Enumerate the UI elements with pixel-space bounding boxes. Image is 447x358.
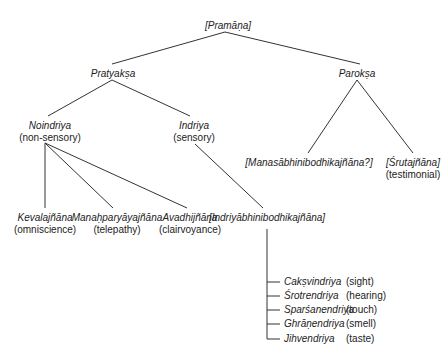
sense-gloss: (smell) <box>346 318 376 330</box>
node-term: Manaḥparyāyajñāna <box>72 212 163 224</box>
sense-gloss: (sight) <box>346 276 374 288</box>
node-manasabhinibodhikajnana: [Manasābhinibodhikajñāna?] <box>245 157 372 169</box>
node-term: Noindriya <box>19 120 81 132</box>
node-gloss: (non-sensory) <box>19 132 81 144</box>
sense-gloss: (hearing) <box>346 290 386 302</box>
node-term: Pratyakṣa <box>91 68 135 80</box>
node-kevalajnana: Kevalajñāna (omniscience) <box>14 212 76 236</box>
tree-edges <box>0 0 447 358</box>
sense-term: Ghrāṇendriya <box>284 318 345 330</box>
sense-gloss: (taste) <box>346 333 374 345</box>
node-pramana: [Pramāṇa] <box>205 20 251 32</box>
node-noindriya: Noindriya (non-sensory) <box>19 120 81 144</box>
node-srutajnana: [Śrutajñāna] (testimonial) <box>386 157 440 181</box>
node-indriya: Indriya (sensory) <box>173 120 215 144</box>
sense-term: Cakṣvindriya <box>284 276 341 288</box>
node-manahparyayajnana: Manaḥparyāyajñāna (telepathy) <box>72 212 163 236</box>
node-gloss: (telepathy) <box>72 224 163 236</box>
node-term: [Manasābhinibodhikajñāna?] <box>245 157 372 169</box>
node-term: [Pramāṇa] <box>205 20 251 32</box>
node-gloss: (omniscience) <box>14 224 76 236</box>
sense-term: Śrotrendriya <box>284 290 338 302</box>
node-paroksa: Parokṣa <box>339 68 376 80</box>
node-gloss: (clairvoyance) <box>159 224 221 236</box>
sense-term: Sparśanendriya <box>284 304 354 316</box>
node-gloss: (testimonial) <box>386 169 440 181</box>
sense-term: Jihvendriya <box>284 333 335 345</box>
node-term: [Śrutajñāna] <box>386 157 440 169</box>
node-term: Parokṣa <box>339 68 376 80</box>
node-pratyaksa: Pratyakṣa <box>91 68 135 80</box>
node-term: Indriya <box>173 120 215 132</box>
sense-gloss: (touch) <box>346 304 377 316</box>
node-term: Kevalajñāna <box>14 212 76 224</box>
node-term: [Indriyābhinibodhikajñāna] <box>209 212 325 224</box>
node-gloss: (sensory) <box>173 132 215 144</box>
node-indriyabhinibodhikajnana: [Indriyābhinibodhikajñāna] <box>209 212 325 224</box>
